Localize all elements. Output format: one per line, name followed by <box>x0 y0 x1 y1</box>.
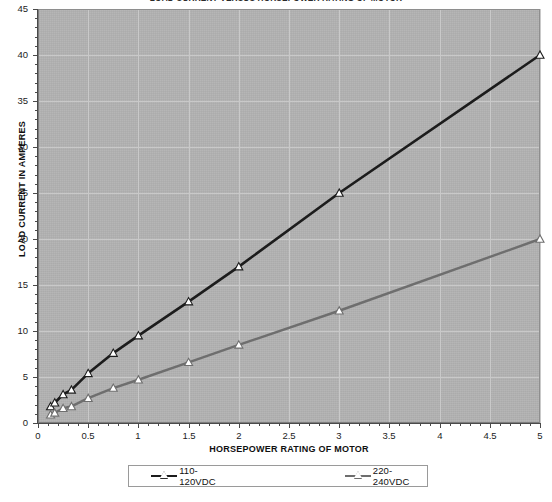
legend-marker-icon-1 <box>345 470 370 482</box>
x-tick-label: 2 <box>219 430 259 441</box>
x-tick-mark-minor <box>359 423 360 426</box>
y-tick-mark <box>33 239 38 240</box>
y-tick-mark-minor <box>35 73 38 74</box>
x-tick-mark-minor <box>319 423 320 426</box>
y-tick-mark-minor <box>35 27 38 28</box>
x-tick-mark-minor <box>530 423 531 426</box>
x-tick-mark-minor <box>169 423 170 426</box>
y-tick-mark-minor <box>35 340 38 341</box>
x-tick-mark-minor <box>108 423 109 426</box>
y-tick-mark-minor <box>35 276 38 277</box>
x-tick-mark <box>38 423 39 428</box>
x-tick-label: 4.5 <box>470 430 510 441</box>
y-tick-label: 0 <box>2 418 28 428</box>
y-tick-mark <box>33 9 38 10</box>
x-tick-label: 0 <box>18 430 58 441</box>
y-tick-mark <box>33 285 38 286</box>
y-tick-mark-minor <box>35 37 38 38</box>
x-tick-mark-minor <box>420 423 421 426</box>
y-tick-mark-minor <box>35 202 38 203</box>
x-tick-mark-minor <box>309 423 310 426</box>
x-tick-label: 4 <box>420 430 460 441</box>
x-tick-mark-minor <box>98 423 99 426</box>
x-tick-mark <box>289 423 290 428</box>
y-tick-label: 45 <box>2 4 28 14</box>
x-tick-mark-minor <box>58 423 59 426</box>
chart-title: LOAD CURRENT VERSUS HORSEPOWER RATING OF… <box>0 0 552 3</box>
y-tick-mark <box>33 101 38 102</box>
x-tick-mark <box>440 423 441 428</box>
x-tick-mark-minor <box>450 423 451 426</box>
x-tick-mark-minor <box>68 423 69 426</box>
x-tick-mark-minor <box>199 423 200 426</box>
x-tick-mark-minor <box>158 423 159 426</box>
y-tick-label: 5 <box>2 372 28 382</box>
x-tick-mark-minor <box>510 423 511 426</box>
legend-entry-220-240vdc[interactable]: 220-240VDC <box>345 466 427 486</box>
y-tick-mark <box>33 55 38 56</box>
x-tick-mark-minor <box>259 423 260 426</box>
x-tick-mark-minor <box>279 423 280 426</box>
x-tick-mark-minor <box>470 423 471 426</box>
x-tick-mark-minor <box>209 423 210 426</box>
y-tick-mark-minor <box>35 119 38 120</box>
y-tick-mark-minor <box>35 313 38 314</box>
y-tick-mark-minor <box>35 92 38 93</box>
x-tick-mark-minor <box>329 423 330 426</box>
y-tick-mark-minor <box>35 386 38 387</box>
y-tick-mark-minor <box>35 129 38 130</box>
y-tick-mark-minor <box>35 257 38 258</box>
x-tick-mark <box>189 423 190 428</box>
series-220-240vdc <box>47 235 544 418</box>
x-tick-mark-minor <box>480 423 481 426</box>
x-tick-mark-minor <box>369 423 370 426</box>
y-axis-line <box>37 9 38 424</box>
y-tick-label: 10 <box>2 326 28 336</box>
y-tick-mark-minor <box>35 64 38 65</box>
y-tick-mark-minor <box>35 294 38 295</box>
y-tick-mark-minor <box>35 230 38 231</box>
series-line <box>51 239 540 415</box>
x-tick-label: 1.5 <box>169 430 209 441</box>
x-tick-mark-minor <box>249 423 250 426</box>
x-tick-label: 0.5 <box>68 430 108 441</box>
x-tick-mark-minor <box>349 423 350 426</box>
legend-entry-110-120vdc[interactable]: 110-120VDC <box>151 466 233 486</box>
x-tick-mark <box>138 423 139 428</box>
x-tick-mark-minor <box>500 423 501 426</box>
x-tick-mark-minor <box>299 423 300 426</box>
x-tick-mark <box>239 423 240 428</box>
x-tick-mark-minor <box>269 423 270 426</box>
x-tick-mark-minor <box>520 423 521 426</box>
y-tick-mark-minor <box>35 165 38 166</box>
x-tick-mark-minor <box>379 423 380 426</box>
legend-marker-icon-0 <box>151 470 176 482</box>
x-tick-mark <box>88 423 89 428</box>
x-tick-label: 1 <box>118 430 158 441</box>
x-tick-mark-minor <box>78 423 79 426</box>
series-110-120vdc <box>47 51 544 410</box>
y-tick-mark-minor <box>35 18 38 19</box>
y-tick-mark <box>33 331 38 332</box>
x-tick-mark <box>490 423 491 428</box>
y-tick-mark-minor <box>35 83 38 84</box>
legend-label-0: 110-120VDC <box>179 465 232 487</box>
series-line <box>51 55 540 406</box>
y-tick-mark-minor <box>35 395 38 396</box>
x-tick-label: 3 <box>319 430 359 441</box>
y-tick-mark-minor <box>35 414 38 415</box>
x-tick-mark-minor <box>430 423 431 426</box>
y-tick-label: 40 <box>2 50 28 60</box>
x-tick-mark-minor <box>128 423 129 426</box>
y-tick-mark-minor <box>35 303 38 304</box>
x-tick-mark-minor <box>399 423 400 426</box>
series-layer <box>38 9 540 423</box>
x-tick-label: 3.5 <box>369 430 409 441</box>
y-tick-mark-minor <box>35 184 38 185</box>
y-tick-mark-minor <box>35 248 38 249</box>
x-tick-mark-minor <box>409 423 410 426</box>
x-tick-mark-minor <box>460 423 461 426</box>
x-tick-mark-minor <box>179 423 180 426</box>
x-tick-mark <box>389 423 390 428</box>
y-tick-mark-minor <box>35 322 38 323</box>
